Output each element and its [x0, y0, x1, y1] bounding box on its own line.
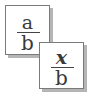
fraction: x b — [40, 43, 83, 88]
numerator: a — [6, 13, 49, 32]
fraction-icon: a b x b — [0, 0, 87, 98]
numerator: x — [40, 48, 83, 67]
fraction-box-x-over-b: x b — [39, 42, 84, 89]
denominator: b — [40, 68, 83, 88]
